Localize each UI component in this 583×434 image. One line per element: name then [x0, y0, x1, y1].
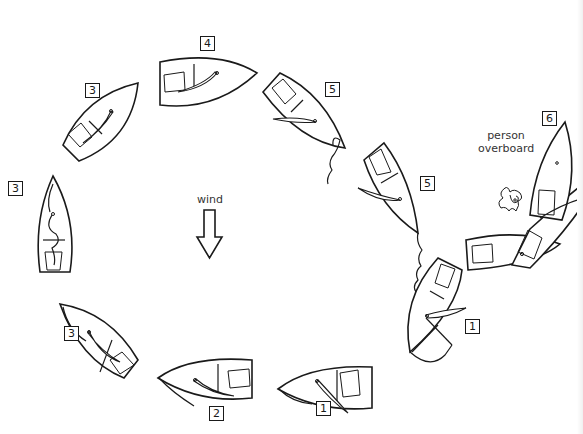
- wind-label: wind: [193, 193, 227, 206]
- person-overboard-line-2: overboard: [478, 142, 534, 155]
- step-label-2: 2: [209, 406, 224, 421]
- person-overboard-label: person overboard: [478, 129, 534, 155]
- boat-4: [160, 58, 257, 106]
- boat-3a: [60, 304, 138, 378]
- boat-2: [158, 359, 252, 406]
- person-in-water-icon: [499, 188, 522, 212]
- wind-arrow-icon: [197, 210, 222, 258]
- boat-3c: [63, 83, 138, 161]
- step-label-1b: 1: [465, 319, 480, 334]
- step-label-3b: 3: [8, 181, 23, 196]
- step-label-3c: 3: [85, 83, 100, 98]
- person-overboard-line-1: person: [478, 129, 534, 142]
- step-label-3a: 3: [64, 326, 79, 341]
- boat-3b: [38, 176, 72, 272]
- boats-drawing: [0, 0, 583, 434]
- boat-5b: [358, 143, 422, 292]
- step-label-5a: 5: [325, 82, 340, 97]
- step-label-4: 4: [200, 36, 215, 51]
- step-label-1a: 1: [316, 401, 331, 416]
- step-label-5b: 5: [420, 176, 435, 191]
- man-overboard-diagram: wind person overboard 1 1 2 3 3 3 4 5 5 …: [0, 0, 583, 434]
- step-label-6: 6: [542, 111, 557, 126]
- page-edge-shadow: [577, 0, 583, 434]
